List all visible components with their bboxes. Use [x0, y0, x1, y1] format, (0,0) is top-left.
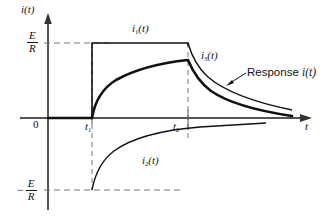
plot-canvas	[0, 0, 324, 224]
i1-subscript: 1	[135, 28, 138, 35]
y-axis-arrowhead	[44, 13, 52, 24]
negative-er-fraction: E R	[26, 178, 37, 202]
origin-label: 0	[33, 119, 39, 130]
response-italic: i(t)	[302, 66, 316, 78]
t1-subscript: 1	[88, 126, 91, 133]
i1-suffix: (t)	[138, 22, 148, 34]
neg-er-numerator: E	[26, 178, 37, 191]
er-denominator: R	[27, 43, 38, 55]
minus-sign: −	[17, 183, 24, 198]
curve-label-response: Response i(t)	[247, 67, 316, 79]
y-tick-label-positive-er: E R	[27, 30, 38, 54]
x-axis-label: t	[305, 121, 308, 132]
neg-er-denominator: R	[26, 191, 37, 203]
curve-label-i3: i3(t)	[201, 50, 218, 61]
t2-subscript: 2	[176, 126, 179, 133]
curve-i1	[48, 43, 188, 118]
y-tick-label-negative-er: − E R	[17, 178, 37, 202]
i3-subscript: 3	[204, 55, 207, 62]
i2-suffix: (t)	[148, 154, 158, 166]
y-axis-label: i(t)	[21, 4, 34, 15]
i3-suffix: (t)	[207, 49, 217, 61]
curve-label-i2: i2(t)	[142, 155, 159, 166]
x-tick-label-t2: t2	[173, 121, 179, 132]
er-numerator: E	[27, 30, 38, 43]
x-tick-label-t1: t1	[85, 121, 91, 132]
waveform-figure: i(t) t 0 E R − E R t1 t2 i1(t) i3(t) i2(…	[0, 0, 324, 224]
curve-label-i1: i1(t)	[132, 23, 149, 34]
curve-i2	[92, 123, 266, 190]
i2-subscript: 2	[145, 160, 148, 167]
response-text: Response	[247, 66, 302, 78]
